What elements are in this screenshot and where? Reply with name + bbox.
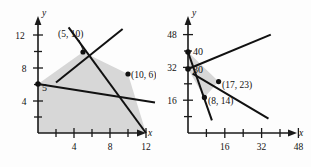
left-label-intercept-5: 5 bbox=[42, 82, 47, 93]
right-x-axis-arrowhead bbox=[288, 130, 297, 137]
right-graph-panel: y x 48 32 16 16 32 48 bbox=[155, 0, 311, 167]
right-label-30: 30 bbox=[193, 64, 203, 75]
left-label-5-10: (5, 10) bbox=[58, 29, 83, 40]
right-vertex-dot-0-40 bbox=[185, 49, 191, 55]
left-x-tick-label-12: 12 bbox=[141, 142, 151, 152]
figure-root: y x 12 8 4 4 8 12 bbox=[0, 0, 311, 167]
right-y-axis-label: y bbox=[191, 8, 197, 18]
right-x-tick-label-16: 16 bbox=[220, 142, 230, 152]
left-vertex-dot-0-5 bbox=[35, 81, 41, 87]
left-vertex-dot-5-10 bbox=[80, 49, 85, 54]
left-y-tick-label-4: 4 bbox=[22, 97, 27, 107]
right-label-40: 40 bbox=[193, 46, 203, 57]
left-x-tick-label-4: 4 bbox=[72, 142, 77, 152]
right-x-tick-label-48: 48 bbox=[294, 142, 304, 152]
left-y-axis-label: y bbox=[41, 8, 47, 18]
right-y-tick-label-48: 48 bbox=[167, 30, 177, 40]
left-vertex-dot-10-6 bbox=[125, 71, 130, 76]
right-label-8-14: (8, 14) bbox=[208, 96, 233, 107]
left-y-axis-arrowhead bbox=[35, 16, 42, 25]
left-x-tick-label-8: 8 bbox=[108, 142, 113, 152]
left-y-tick-label-12: 12 bbox=[15, 31, 25, 41]
right-vertex-dot-0-30 bbox=[185, 66, 191, 72]
right-label-17-23: (17, 23) bbox=[222, 80, 252, 91]
right-vertex-dot-17-23 bbox=[216, 79, 221, 84]
left-graph-svg: y x 12 8 4 4 8 12 bbox=[0, 0, 156, 167]
left-graph-panel: y x 12 8 4 4 8 12 bbox=[0, 0, 156, 167]
left-y-tick-label-8: 8 bbox=[22, 64, 27, 74]
left-label-10-6: (10, 6) bbox=[131, 70, 156, 81]
right-y-tick-label-16: 16 bbox=[167, 96, 177, 106]
right-y-tick-label-32: 32 bbox=[167, 63, 177, 73]
right-vertex-dot-8-14 bbox=[202, 95, 207, 100]
right-graph-svg: y x 48 32 16 16 32 48 bbox=[155, 0, 311, 167]
right-x-tick-label-32: 32 bbox=[257, 142, 267, 152]
right-y-axis-arrowhead bbox=[185, 16, 192, 25]
left-x-axis-label: x bbox=[147, 128, 153, 138]
